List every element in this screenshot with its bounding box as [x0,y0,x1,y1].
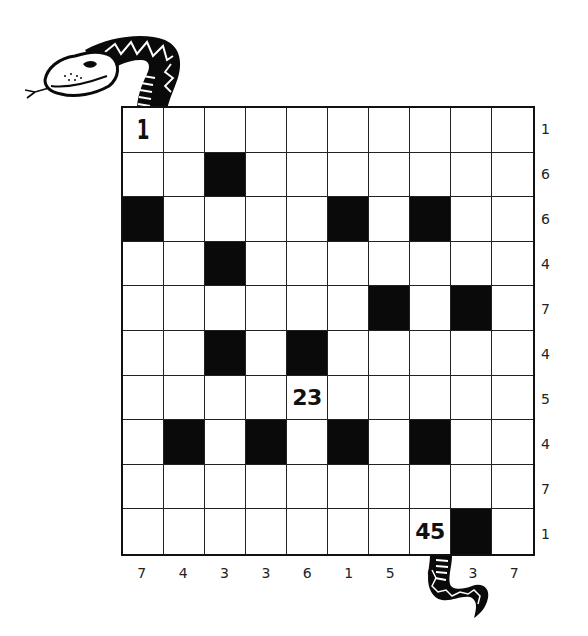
grid-cell[interactable] [123,509,164,554]
grid-cell[interactable] [246,242,287,287]
grid-cell[interactable] [164,376,205,421]
grid-cell[interactable] [369,108,410,153]
grid-cell[interactable] [451,108,492,153]
grid-cell[interactable] [287,108,328,153]
grid-cell[interactable] [492,108,533,153]
column-clue: 7 [494,562,535,584]
grid-cell[interactable] [369,465,410,510]
column-clue: 5 [369,562,410,584]
grid-cell[interactable]: 23 [287,376,328,421]
black-cell [164,420,205,465]
grid-cell[interactable] [328,465,369,510]
grid-cell[interactable] [164,242,205,287]
grid-cell[interactable] [492,420,533,465]
grid-cell[interactable] [451,197,492,242]
grid-cell[interactable] [205,108,246,153]
grid-cell[interactable] [328,376,369,421]
grid-cell[interactable] [369,153,410,198]
grid-cell[interactable] [492,376,533,421]
grid-cell[interactable] [246,286,287,331]
grid-cell[interactable] [328,153,369,198]
grid-cell[interactable] [369,197,410,242]
grid-cell[interactable] [164,108,205,153]
grid-cell[interactable] [492,153,533,198]
grid-cell[interactable] [287,509,328,554]
grid-cell[interactable] [410,465,451,510]
grid-cell[interactable] [205,286,246,331]
grid-cell[interactable] [492,331,533,376]
black-cell [451,286,492,331]
grid-cell[interactable] [410,108,451,153]
grid-cell[interactable] [328,331,369,376]
row-clue: 7 [541,286,571,331]
grid-cell[interactable] [369,420,410,465]
grid-cell[interactable] [164,197,205,242]
grid-cell[interactable] [328,286,369,331]
black-cell [451,509,492,554]
grid-cell[interactable] [328,509,369,554]
grid-cell[interactable] [246,465,287,510]
grid-cell[interactable] [410,331,451,376]
grid-cell[interactable] [451,153,492,198]
grid-cell[interactable] [410,242,451,287]
grid-cell[interactable] [451,376,492,421]
grid-cell[interactable] [246,108,287,153]
grid-cell[interactable] [492,286,533,331]
grid-cell[interactable] [451,420,492,465]
grid-cell[interactable] [369,376,410,421]
grid-cell[interactable] [205,197,246,242]
cell-number: 23 [292,385,322,410]
grid-cell[interactable] [287,286,328,331]
grid-cell[interactable] [492,465,533,510]
grid-cell[interactable] [492,242,533,287]
grid-cell[interactable] [164,465,205,510]
grid-cell[interactable] [123,376,164,421]
grid-cell[interactable] [492,509,533,554]
grid-cell[interactable] [328,108,369,153]
grid-cell[interactable] [123,331,164,376]
grid-cell[interactable] [287,420,328,465]
grid-cell[interactable] [410,153,451,198]
grid-cell[interactable] [164,153,205,198]
grid-cell[interactable] [451,242,492,287]
grid-cell[interactable] [287,242,328,287]
grid-cell[interactable] [369,242,410,287]
grid-cell[interactable] [205,465,246,510]
grid-cell[interactable] [328,242,369,287]
row-clue: 7 [541,466,571,511]
grid-cell[interactable] [205,420,246,465]
grid-cell[interactable] [164,331,205,376]
grid-cell[interactable] [123,286,164,331]
grid-cell[interactable] [164,509,205,554]
grid-cell[interactable] [287,153,328,198]
black-cell [328,197,369,242]
row-clue: 1 [541,106,571,151]
grid-cell[interactable] [205,376,246,421]
grid-cell[interactable] [410,376,451,421]
grid-cell[interactable] [205,509,246,554]
grid-cell[interactable] [246,509,287,554]
grid-cell[interactable] [492,197,533,242]
grid-cell[interactable] [369,331,410,376]
grid-cell[interactable] [287,197,328,242]
grid-cell[interactable] [246,197,287,242]
grid-cell[interactable]: 1 [123,108,164,153]
grid-cell[interactable] [123,420,164,465]
grid-cell[interactable] [369,509,410,554]
grid-cell[interactable] [246,153,287,198]
grid-cell[interactable] [451,331,492,376]
puzzle-grid: 12345 [121,106,535,556]
grid-cell[interactable] [451,465,492,510]
grid-cell[interactable] [123,153,164,198]
grid-cell[interactable]: 45 [410,509,451,554]
grid-cell[interactable] [123,465,164,510]
grid-cell[interactable] [246,376,287,421]
column-clue: 1 [328,562,369,584]
grid-cell[interactable] [287,465,328,510]
column-clue: 7 [121,562,162,584]
grid-cell[interactable] [123,242,164,287]
grid-cell[interactable] [410,286,451,331]
grid-cell[interactable] [246,331,287,376]
grid-cell[interactable] [164,286,205,331]
snake-head-icon [25,28,195,110]
